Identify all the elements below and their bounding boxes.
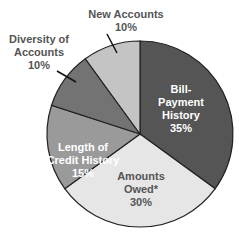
label-line: 30% xyxy=(130,196,152,208)
label-line: Length of xyxy=(58,141,108,153)
label-line: Bill- xyxy=(171,83,192,95)
label-line: 10% xyxy=(28,59,50,71)
label-line: Owed* xyxy=(124,183,159,195)
label-line: Diversity of xyxy=(9,33,69,45)
label-line: New Accounts xyxy=(88,8,163,20)
label-line: Credit History xyxy=(47,154,121,166)
label-line: Payment xyxy=(158,96,204,108)
label-new-accounts: New Accounts10% xyxy=(88,8,163,33)
label-line: Amounts xyxy=(117,170,165,182)
label-diversity: Diversity ofAccounts10% xyxy=(9,33,69,71)
label-line: 10% xyxy=(115,21,137,33)
label-line: Accounts xyxy=(14,46,64,58)
pie-chart: Bill-PaymentHistory35% AmountsOwed*30% L… xyxy=(0,0,247,247)
label-line: 35% xyxy=(170,122,192,134)
label-line: 15% xyxy=(72,167,94,179)
label-line: History xyxy=(162,109,201,121)
